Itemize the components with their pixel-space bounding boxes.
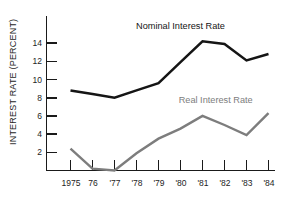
- y-tick-label-6: 6: [37, 111, 42, 121]
- y-tick-label-2: 2: [37, 147, 42, 157]
- chart-svg: 2 4 6 8 10 12 14 INTEREST RATE (PERCENT)…: [0, 0, 287, 199]
- x-tick-label-1975: 1975: [62, 178, 81, 188]
- interest-rate-chart: 2 4 6 8 10 12 14 INTEREST RATE (PERCENT)…: [0, 0, 287, 199]
- y-tick-label-8: 8: [37, 93, 42, 103]
- x-tick-label-1980: '80: [175, 178, 186, 188]
- x-tick-label-1981: '81: [197, 178, 208, 188]
- x-tick-label-1976: 76: [88, 178, 98, 188]
- y-tick-label-4: 4: [37, 129, 42, 139]
- x-tick-label-1979: '79: [153, 178, 164, 188]
- x-tick-label-1983: '83: [241, 178, 252, 188]
- y-axis-title: INTEREST RATE (PERCENT): [8, 19, 18, 145]
- y-tick-label-14: 14: [33, 38, 43, 48]
- y-tick-label-12: 12: [33, 56, 43, 66]
- series-label-real: Real Interest Rate: [179, 95, 253, 105]
- y-tick-label-10: 10: [33, 75, 43, 85]
- x-tick-label-1977: '77: [109, 178, 120, 188]
- x-tick-label-1982: '82: [219, 178, 230, 188]
- x-tick-label-1984: '84: [263, 178, 274, 188]
- x-tick-label-1978: '78: [131, 178, 142, 188]
- series-label-nominal: Nominal Interest Rate: [136, 21, 225, 31]
